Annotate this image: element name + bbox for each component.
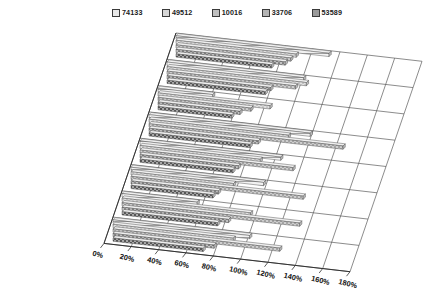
x-tick-label: 20%: [119, 252, 136, 264]
x-tick-label: 80%: [201, 261, 218, 273]
bar-chart: 7413349512100163370653589 Average sale p…: [0, 0, 434, 289]
x-tick-label: 100%: [228, 264, 249, 277]
x-tick-label: 160%: [310, 274, 331, 287]
x-tick-label: 60%: [174, 258, 191, 270]
x-tick-label: 40%: [146, 255, 163, 267]
plot-area: 0%20%40%60%80%100%120%140%160%180%: [0, 0, 434, 289]
x-tick-label: 120%: [256, 267, 277, 280]
x-tick-label: 180%: [338, 277, 359, 289]
x-tick-label: 0%: [92, 249, 105, 260]
value-axis: 0%20%40%60%80%100%120%140%160%180%: [92, 243, 359, 289]
x-tick-label: 140%: [283, 271, 304, 284]
